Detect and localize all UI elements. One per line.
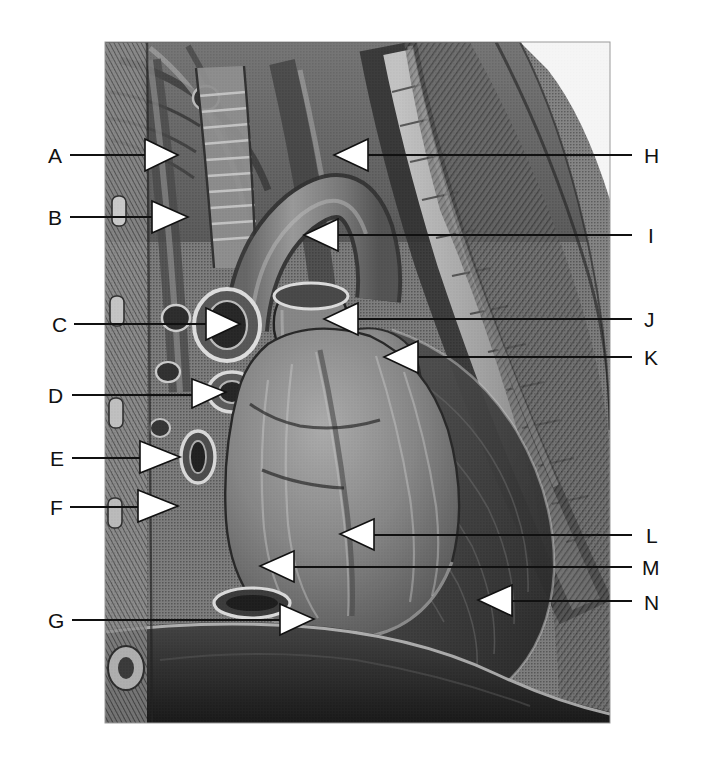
label-G: G: [48, 609, 64, 632]
label-H: H: [644, 144, 659, 167]
label-K: K: [644, 346, 658, 369]
label-L: L: [646, 524, 658, 547]
label-D: D: [48, 384, 63, 407]
label-N: N: [644, 591, 659, 614]
anatomy-figure: A B C D E: [0, 0, 704, 762]
label-I: I: [648, 224, 654, 247]
label-A: A: [48, 144, 62, 167]
label-M: M: [642, 556, 660, 579]
label-J: J: [644, 308, 655, 331]
figure-canvas: A B C D E: [0, 0, 704, 762]
label-B: B: [48, 206, 62, 229]
label-C: C: [52, 313, 67, 336]
label-E: E: [50, 447, 64, 470]
label-F: F: [50, 496, 63, 519]
